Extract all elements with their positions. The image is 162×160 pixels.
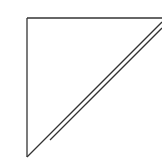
diagram-canvas [0,0,162,160]
hypotenuse-line-outer [27,22,162,157]
hypotenuse-line-inner [50,28,162,140]
triangle-diagram [0,0,162,160]
